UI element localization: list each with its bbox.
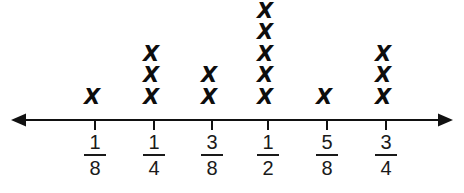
data-mark-x: X [143, 87, 159, 109]
data-mark-x: X [375, 65, 391, 87]
mark-stack-3-4: X X X [363, 44, 403, 109]
data-mark-x: X [201, 65, 217, 87]
fraction-numerator: 3 [201, 131, 223, 154]
data-mark-x: X [201, 87, 217, 109]
fraction-denominator: 4 [143, 156, 165, 179]
fraction-numerator: 1 [143, 131, 165, 154]
fraction-denominator: 8 [201, 156, 223, 179]
tick-label-3-4: 3 4 [364, 131, 408, 179]
tick-label-1-2: 1 2 [246, 131, 290, 179]
data-mark-x: X [316, 87, 332, 109]
fraction-numerator: 1 [84, 131, 106, 154]
fraction-numerator: 5 [316, 131, 338, 154]
tick-label-3-8: 3 8 [190, 131, 234, 179]
fraction-1-8: 1 8 [84, 131, 106, 179]
data-mark-x: X [84, 87, 100, 109]
tick-label-1-4: 1 4 [132, 131, 176, 179]
axis-right-arrow-icon [438, 114, 453, 127]
line-plot-figure: X X X X X X X X X X X X X X X 1 8 1 4 [0, 0, 464, 193]
fraction-numerator: 3 [375, 131, 397, 154]
data-mark-x: X [375, 87, 391, 109]
data-mark-x: X [257, 1, 273, 23]
data-mark-x: X [375, 44, 391, 66]
fraction-1-2: 1 2 [257, 131, 279, 179]
fraction-denominator: 2 [257, 156, 279, 179]
fraction-3-4: 3 4 [375, 131, 397, 179]
mark-stack-5-8: X [304, 87, 344, 109]
tick-label-5-8: 5 8 [305, 131, 349, 179]
mark-stack-1-2: X X X X X [245, 1, 285, 109]
fraction-denominator: 8 [84, 156, 106, 179]
fraction-3-8: 3 8 [201, 131, 223, 179]
mark-stack-1-4: X X X [131, 44, 171, 109]
fraction-5-8: 5 8 [316, 131, 338, 179]
mark-stack-3-8: X X [189, 65, 229, 108]
data-mark-x: X [257, 44, 273, 66]
fraction-denominator: 8 [316, 156, 338, 179]
fraction-denominator: 4 [375, 156, 397, 179]
fraction-numerator: 1 [257, 131, 279, 154]
data-mark-x: X [257, 22, 273, 44]
axis-left-arrow-icon [11, 114, 26, 127]
data-mark-x: X [257, 65, 273, 87]
tick-label-1-8: 1 8 [73, 131, 117, 179]
data-mark-x: X [257, 87, 273, 109]
data-mark-x: X [143, 44, 159, 66]
mark-stack-1-8: X [72, 87, 112, 109]
fraction-1-4: 1 4 [143, 131, 165, 179]
data-mark-x: X [143, 65, 159, 87]
